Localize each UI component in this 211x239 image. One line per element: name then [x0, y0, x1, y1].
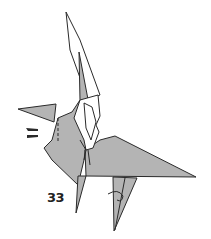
push-arrows-icon	[26, 128, 38, 138]
origami-diagram: 33	[0, 0, 211, 239]
body-wing	[85, 136, 196, 177]
left-leg	[76, 176, 86, 213]
origami-figure	[0, 0, 211, 239]
step-number: 33	[47, 190, 64, 205]
left-ear-spike	[18, 104, 56, 122]
